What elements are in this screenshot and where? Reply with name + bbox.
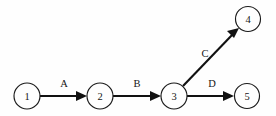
edge-d-arrowhead bbox=[223, 91, 234, 101]
edge-b-label: B bbox=[133, 78, 140, 89]
node-5[interactable]: 5 bbox=[235, 84, 260, 109]
graph-canvas: A B C D 1 2 bbox=[0, 0, 276, 116]
node-2[interactable]: 2 bbox=[87, 83, 113, 109]
edge-a[interactable]: A bbox=[40, 78, 87, 101]
edge-d-label: D bbox=[208, 78, 216, 89]
node-5-label: 5 bbox=[244, 91, 249, 102]
node-2-label: 2 bbox=[97, 91, 102, 102]
edge-d[interactable]: D bbox=[187, 78, 234, 101]
edge-b[interactable]: B bbox=[113, 78, 161, 101]
node-1[interactable]: 1 bbox=[14, 83, 40, 109]
edge-b-arrowhead bbox=[150, 91, 161, 101]
node-4[interactable]: 4 bbox=[236, 7, 261, 32]
edge-a-label: A bbox=[60, 78, 68, 89]
network-diagram: A B C D 1 2 bbox=[0, 0, 276, 116]
edge-c-arrowhead bbox=[227, 28, 239, 38]
node-4-label: 4 bbox=[245, 14, 251, 25]
node-1-label: 1 bbox=[24, 91, 29, 102]
edge-c-label: C bbox=[201, 48, 208, 59]
node-3[interactable]: 3 bbox=[161, 83, 187, 109]
node-3-label: 3 bbox=[171, 91, 176, 102]
edge-a-arrowhead bbox=[76, 91, 87, 101]
